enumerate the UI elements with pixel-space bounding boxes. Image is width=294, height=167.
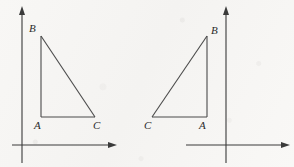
- right-triangle: [152, 36, 207, 117]
- figure-canvas: B A C B A C: [0, 0, 294, 167]
- right-panel: [0, 0, 294, 167]
- right-x-axis-arrow-icon: [281, 142, 290, 148]
- right-vertex-label-a: A: [199, 120, 206, 131]
- right-axes: [186, 6, 290, 163]
- right-vertex-label-c: C: [144, 120, 151, 131]
- right-y-axis-arrow-icon: [223, 6, 229, 15]
- right-vertex-label-b: B: [211, 25, 218, 36]
- right-triangle-hypotenuse-bc: [152, 36, 207, 117]
